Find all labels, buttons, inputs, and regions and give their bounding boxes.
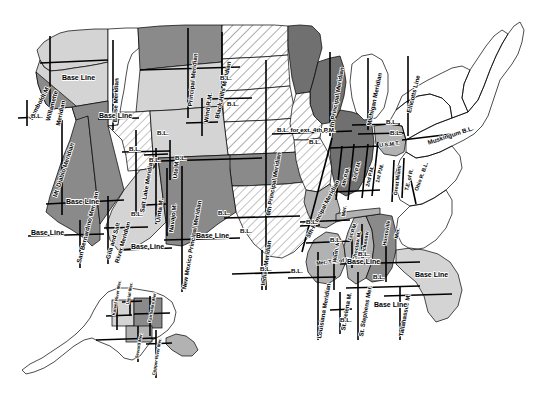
- map-label-bl-ks: B.L.: [240, 228, 252, 234]
- map-label-bl-ar: B.L.: [330, 237, 342, 243]
- map-label-bl-ext-4th: B.L. for ext. 4th P.M.: [277, 127, 336, 133]
- line-te-of-r: [402, 158, 404, 198]
- map-label-bl-ca-s: Base Line: [66, 198, 99, 205]
- map-label-bl-wy2: B.L.: [227, 101, 239, 107]
- line-kateel-river-baseline: [106, 315, 132, 316]
- map-label-bl-mi2: B.L.: [390, 130, 402, 136]
- map-label-bl-mt: B.L.: [220, 75, 232, 81]
- map-label-bl-ia: B.L.: [309, 139, 321, 145]
- map-label-bl-az: B.L.: [131, 211, 143, 217]
- map-label-bl-nv: B.L.: [129, 146, 141, 152]
- map-label-bl-ms2: Base Line: [374, 301, 407, 308]
- line-uinta-baseline: [144, 154, 168, 155]
- map-label-bl-ute: B.L.: [175, 155, 187, 161]
- line-louisiana-baseline: [288, 277, 336, 278]
- alaska-aleutians: [166, 334, 198, 356]
- line-wind-river-baseline: [186, 122, 218, 123]
- map-label-bl-la: B.L.: [340, 317, 352, 323]
- map-label-bl-nm: Base Line: [196, 232, 229, 239]
- map-label-bl-ca-n: B.L.: [31, 113, 43, 119]
- region-south-dakota: [222, 55, 290, 91]
- map-label-bl-mi1: B.L.: [386, 119, 398, 125]
- map-label-bl-la2: B.L.: [291, 268, 303, 274]
- map-label-bl-il: B.L.: [358, 251, 370, 257]
- map-label-bl-ms: Base Line: [347, 258, 380, 265]
- map-label-bl-ok: B.L.: [260, 266, 272, 272]
- map-label-bl-al: B.L.: [373, 274, 385, 280]
- alaska-inset: [22, 288, 198, 374]
- map-label-bl-or: Base Line: [62, 74, 95, 81]
- plss-map: Humboldt M.WillametteMeridianMt. Diablo …: [0, 0, 539, 395]
- map-label-bl-co: B.L.: [218, 210, 230, 216]
- map-label-bl-wy: B.L.: [157, 130, 169, 136]
- map-label-bl-id: Base Line: [99, 112, 132, 119]
- line-huntsville-baseline: [346, 286, 420, 288]
- map-label-bl-fl: Base Line: [415, 271, 448, 278]
- region-kansas: [224, 118, 300, 155]
- map-label-bl-az-s: Base Line: [131, 243, 164, 250]
- region-north-dakota: [222, 25, 288, 59]
- map-label-bl-ca-sb: Base Line: [31, 229, 64, 236]
- map-label-bl-ut: B.L.: [149, 157, 161, 163]
- line-black-hills-baseline: [208, 98, 252, 99]
- map-label-bl-tx: B.L.: [306, 219, 318, 225]
